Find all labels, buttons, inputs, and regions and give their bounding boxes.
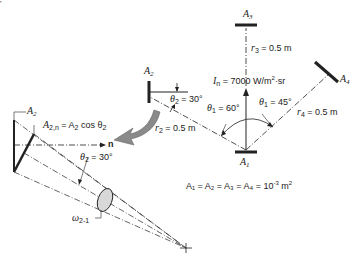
- label-r4: r4 = 0.5 m: [297, 107, 338, 118]
- label-theta2-detail: ωθ2 = 30°: [80, 152, 113, 163]
- label-a1: A1: [240, 157, 250, 169]
- label-theta1-right: θ1 = 45°: [259, 97, 292, 108]
- arc-arrow-right: [267, 122, 273, 127]
- label-intensity: In = 7000 W/m2·sr: [213, 75, 285, 87]
- label-r2: r2 = 0.5 m: [155, 123, 196, 134]
- label-a2: A2: [144, 66, 154, 78]
- cone-lines: [14, 120, 186, 248]
- label-solid-angle: ω2-1: [72, 213, 89, 224]
- label-normal-n: n: [108, 140, 114, 149]
- label-projected-area: A2,n = A2 cos θ2: [43, 120, 106, 131]
- normal-arrowhead-detail: [100, 143, 106, 148]
- theta1-arc: [221, 119, 273, 136]
- corner-mark: ': [0, 0, 2, 8]
- label-theta2-top: θ2 = 30°: [170, 94, 203, 105]
- normal-arrowhead: [243, 88, 249, 96]
- area-equation: A₁ = A₂ = A₃ = A₄ = 10-3 m2: [186, 180, 292, 191]
- label-a4: A4: [340, 74, 350, 86]
- zoom-arrow: [114, 110, 160, 145]
- surface-a4: [315, 62, 338, 82]
- label-theta1-left: θ1 = 60°: [207, 103, 240, 114]
- detail-label-a2: A2: [27, 106, 37, 118]
- theta2-arrow-top: [175, 87, 179, 92]
- label-r3: r3 = 0.5 m: [251, 43, 292, 54]
- label-a3: A3: [243, 9, 253, 21]
- theta2-detail-arrow: [78, 179, 82, 185]
- solid-angle-ellipse: [94, 186, 115, 213]
